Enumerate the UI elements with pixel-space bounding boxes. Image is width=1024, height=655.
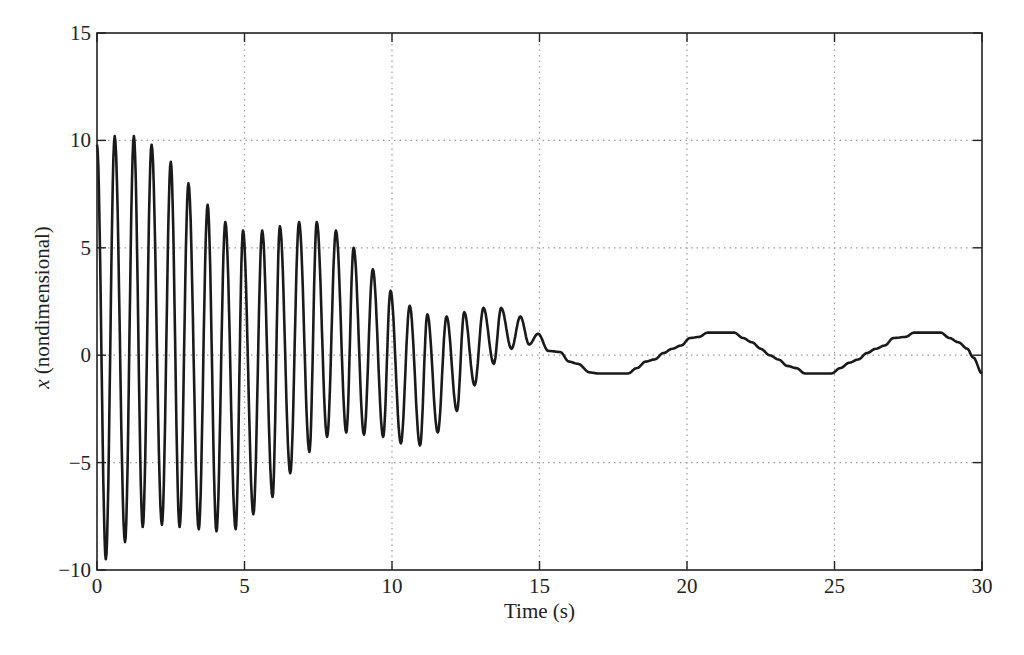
x-tick-label: 10 xyxy=(382,574,403,598)
x-axis-label: Time (s) xyxy=(504,599,575,623)
y-tick-label: 0 xyxy=(81,343,92,367)
x-tick-labels: 051015202530 xyxy=(92,574,993,598)
x-tick-label: 25 xyxy=(824,574,845,598)
x-tick-label: 5 xyxy=(239,574,250,598)
y-tick-label: −5 xyxy=(69,451,91,475)
x-tick-label: 30 xyxy=(972,574,993,598)
x-tick-label: 20 xyxy=(677,574,698,598)
y-tick-label: 10 xyxy=(70,128,91,152)
line-chart: 051015202530 −10−5051015 Time (s) x (non… xyxy=(0,0,1024,655)
y-tick-label: −10 xyxy=(58,558,91,582)
y-tick-label: 15 xyxy=(70,21,91,45)
y-tick-label: 5 xyxy=(81,236,92,260)
x-tick-label: 15 xyxy=(529,574,550,598)
y-axis-label: x (nondimensional) xyxy=(30,226,54,390)
x-tick-label: 0 xyxy=(92,574,103,598)
y-tick-labels: −10−5051015 xyxy=(58,21,91,582)
y-axis-unit: (nondimensional) xyxy=(30,226,54,379)
